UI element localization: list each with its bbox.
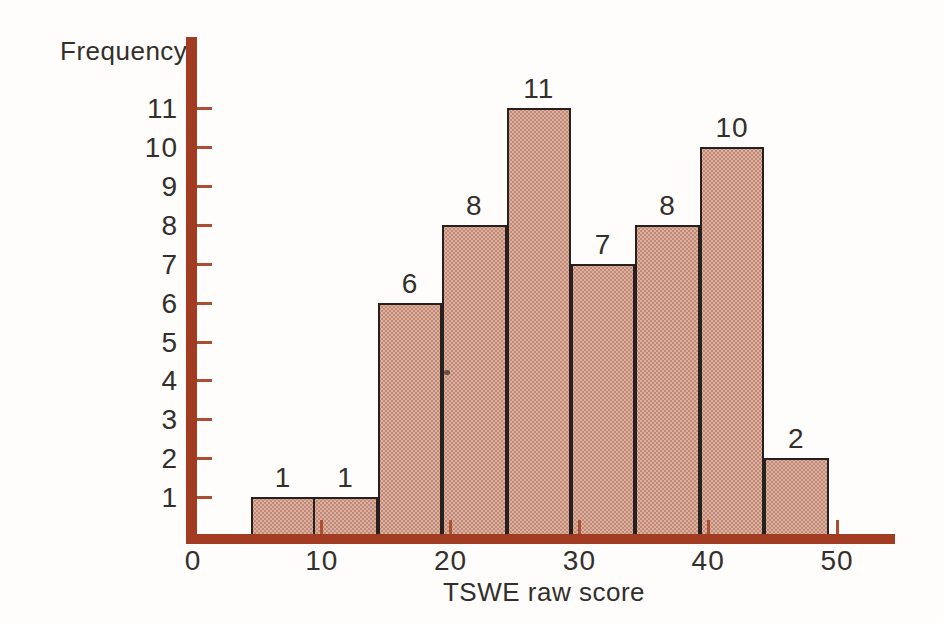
- y-axis-tick-mark: [197, 302, 212, 305]
- y-axis-tick-mark: [197, 107, 212, 110]
- bar-value-label: 1: [314, 463, 378, 493]
- x-axis-tick-label: 0: [153, 545, 233, 577]
- y-axis-title: Frequency: [60, 36, 187, 67]
- x-axis-tick-mark: [320, 520, 323, 534]
- x-axis-tick-label: 10: [282, 545, 362, 577]
- x-axis-tick-label: 50: [797, 545, 877, 577]
- y-axis-tick-mark: [197, 418, 212, 421]
- x-axis-tick-mark: [836, 520, 839, 534]
- y-axis-line: [186, 37, 197, 544]
- y-axis-tick-label: 4: [96, 365, 178, 397]
- y-axis-tick-label: 2: [96, 443, 178, 475]
- y-axis-tick-label: 10: [96, 132, 178, 164]
- histogram-bar: [764, 458, 828, 541]
- y-axis-tick-label: 3: [96, 404, 178, 436]
- y-axis-tick-label: 7: [96, 249, 178, 281]
- bar-value-label: 8: [636, 191, 700, 221]
- bar-value-label: 7: [571, 230, 635, 260]
- y-axis-tick-label: 6: [96, 288, 178, 320]
- x-axis-tick-label: 30: [539, 545, 619, 577]
- histogram-figure: Frequency 123456789101101020304050116811…: [0, 0, 943, 623]
- histogram-bar: [378, 303, 442, 541]
- histogram-bar: [700, 147, 764, 541]
- bar-value-label: 1: [251, 463, 315, 493]
- y-axis-tick-mark: [197, 224, 212, 227]
- y-axis-tick-mark: [197, 146, 212, 149]
- x-axis-title: TSWE raw score: [344, 577, 744, 608]
- y-axis-tick-mark: [197, 379, 212, 382]
- histogram-bar: [571, 264, 635, 541]
- bar-value-label: 6: [378, 269, 442, 299]
- y-axis-tick-mark: [197, 457, 212, 460]
- bar-value-label: 2: [764, 424, 828, 454]
- x-axis-line: [186, 534, 895, 544]
- y-axis-tick-mark: [197, 341, 212, 344]
- y-axis-tick-mark: [197, 185, 212, 188]
- y-axis-tick-label: 5: [96, 327, 178, 359]
- y-axis-tick-label: 9: [96, 171, 178, 203]
- histogram-bar: [507, 108, 571, 541]
- x-axis-tick-mark: [449, 520, 452, 534]
- x-axis-tick-mark: [707, 520, 710, 534]
- x-axis-tick-mark: [578, 520, 581, 534]
- print-artifact-speck: [444, 370, 450, 375]
- y-axis-tick-mark: [197, 263, 212, 266]
- bar-value-label: 8: [442, 191, 506, 221]
- x-axis-tick-label: 20: [411, 545, 491, 577]
- y-axis-tick-label: 8: [96, 210, 178, 242]
- y-axis-tick-label: 11: [96, 93, 178, 125]
- y-axis-tick-mark: [197, 496, 212, 499]
- histogram-bar: [635, 225, 699, 541]
- bar-value-label: 11: [507, 74, 571, 104]
- bar-value-label: 10: [700, 113, 764, 143]
- histogram-bar: [442, 225, 506, 541]
- y-axis-tick-label: 1: [96, 482, 178, 514]
- x-axis-tick-label: 40: [668, 545, 748, 577]
